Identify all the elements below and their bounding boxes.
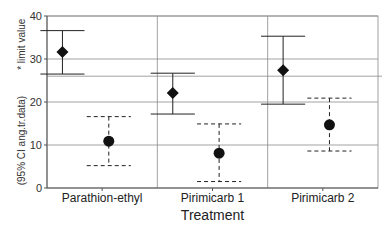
- x-tick-label: Parathion-ethyl: [62, 191, 143, 205]
- x-tick-label: Pirimicarb 1: [181, 191, 245, 205]
- y-tick-label: 0: [36, 182, 42, 194]
- y-tick-label: 40: [30, 10, 42, 22]
- y-tick-label: 30: [30, 53, 42, 65]
- x-tick-label: Pirimicarb 2: [291, 191, 355, 205]
- diamond-marker: [167, 87, 179, 99]
- circle-marker: [214, 148, 225, 159]
- diamond-marker: [277, 64, 289, 76]
- y-tick-label: 20: [30, 96, 42, 108]
- circle-marker: [103, 136, 114, 147]
- diamond-marker: [56, 46, 68, 58]
- chart: 010203040Parathion-ethylPirimicarb 1Piri…: [0, 0, 392, 234]
- y-axis-label: (95% CI ang.tr.data)* limit value: [16, 18, 27, 185]
- y-tick-label: 10: [30, 139, 42, 151]
- x-axis-label: Treatment: [181, 207, 244, 223]
- circle-marker: [324, 119, 335, 130]
